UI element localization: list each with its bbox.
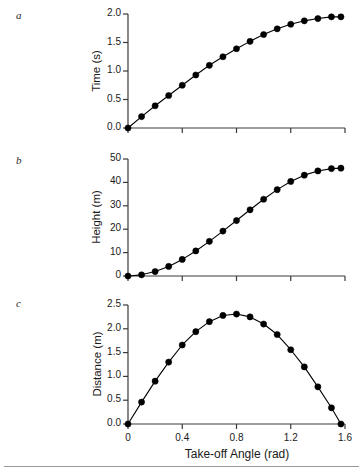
data-point	[220, 54, 226, 60]
data-point	[288, 347, 294, 353]
data-point	[206, 238, 212, 244]
data-point	[315, 15, 321, 21]
y-tick-label: 10	[110, 246, 121, 257]
data-point	[261, 321, 267, 327]
y-tick-label: 1.0	[107, 369, 121, 380]
y-tick-label: 1.5	[107, 36, 121, 47]
data-point	[274, 331, 280, 337]
y-tick-label: 1.5	[107, 346, 121, 357]
data-point	[179, 256, 185, 262]
data-point	[138, 272, 144, 278]
footer-rule	[4, 466, 359, 467]
plot-canvas	[0, 0, 363, 472]
data-point	[193, 248, 199, 254]
data-point	[220, 228, 226, 234]
data-point	[125, 421, 131, 427]
data-point	[274, 26, 280, 32]
x-tick-label: 0.8	[217, 432, 257, 443]
y-tick-label: 0.5	[107, 393, 121, 404]
y-tick-label: 0.5	[107, 93, 121, 104]
panel-b	[123, 159, 345, 281]
data-point	[301, 18, 307, 24]
y-tick-label: 0.0	[107, 417, 121, 428]
x-tick-label: 0	[108, 432, 148, 443]
data-point	[233, 46, 239, 52]
y-tick-label: 1.0	[107, 64, 121, 75]
data-point	[166, 359, 172, 365]
data-point	[206, 62, 212, 68]
data-point	[261, 31, 267, 37]
data-point	[328, 165, 334, 171]
panel-c	[123, 305, 345, 429]
x-tick-label: 1.2	[271, 432, 311, 443]
y-axis-label-time: Time (s)	[90, 50, 102, 92]
data-point	[193, 72, 199, 78]
data-point	[338, 14, 344, 20]
panel-a	[123, 14, 345, 133]
data-point	[301, 364, 307, 370]
data-point	[338, 421, 344, 427]
data-point	[206, 319, 212, 325]
data-point	[166, 92, 172, 98]
y-tick-label: 30	[110, 199, 121, 210]
data-point	[152, 268, 158, 274]
data-point	[315, 384, 321, 390]
projectile-motion-figure: a b c Time (s) Height (m) Distance (m) T…	[0, 0, 363, 472]
x-axis-label: Take-off Angle (rad)	[128, 447, 346, 461]
data-point	[301, 172, 307, 178]
data-point	[179, 342, 185, 348]
data-point	[247, 38, 253, 44]
data-point	[233, 217, 239, 223]
data-point	[315, 168, 321, 174]
panel-letter-c: c	[16, 297, 21, 309]
data-point	[261, 196, 267, 202]
panel-letter-a: a	[16, 9, 22, 21]
data-point	[247, 207, 253, 213]
data-point	[152, 103, 158, 109]
data-point	[166, 263, 172, 269]
data-point	[220, 312, 226, 318]
y-axis-label-height: Height (m)	[90, 190, 102, 244]
y-tick-label: 2.5	[107, 298, 121, 309]
y-tick-label: 2.0	[107, 7, 121, 18]
data-point	[125, 125, 131, 131]
x-tick-label: 0.4	[162, 432, 202, 443]
y-tick-label: 0.0	[107, 121, 121, 132]
data-point	[288, 178, 294, 184]
data-point	[193, 329, 199, 335]
data-point	[328, 14, 334, 20]
data-point	[274, 187, 280, 193]
data-point	[125, 273, 131, 279]
y-axis-label-distance: Distance (m)	[90, 331, 102, 396]
panel-letter-b: b	[16, 154, 22, 166]
x-tick-label: 1.6	[325, 432, 363, 443]
data-point	[247, 314, 253, 320]
y-tick-label: 50	[110, 152, 121, 163]
data-point	[233, 311, 239, 317]
data-point	[338, 165, 344, 171]
data-point	[288, 21, 294, 27]
y-tick-label: 40	[110, 175, 121, 186]
data-point	[152, 378, 158, 384]
data-point	[138, 399, 144, 405]
y-tick-label: 20	[110, 222, 121, 233]
y-tick-label: 2.0	[107, 322, 121, 333]
y-tick-label: 0	[115, 269, 121, 280]
data-point	[328, 405, 334, 411]
data-point	[138, 114, 144, 120]
data-point	[179, 82, 185, 88]
